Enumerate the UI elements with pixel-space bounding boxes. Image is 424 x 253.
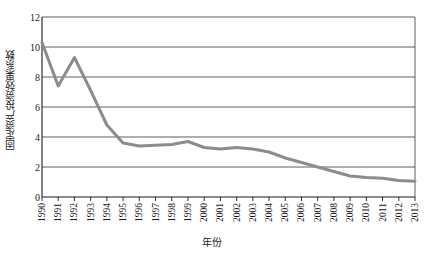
- chart-svg: [0, 0, 424, 253]
- x-axis-title: 年份: [0, 234, 424, 249]
- chart-container: 固定资产投资效果系数 024681012 1990199119921993199…: [0, 0, 424, 253]
- plot-area: [0, 0, 424, 253]
- data-series-line: [42, 43, 415, 182]
